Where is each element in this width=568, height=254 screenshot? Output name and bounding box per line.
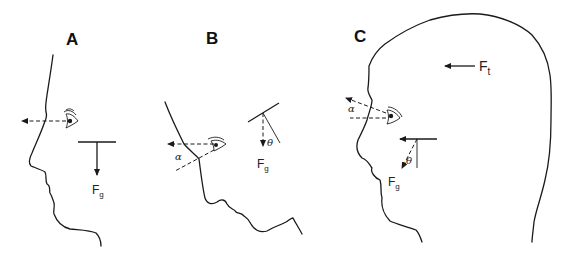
gravity-force-label-b: Fg [257,157,269,173]
face-profile-b [165,102,302,234]
eye-icon-a [64,109,78,128]
theta-label-b: θ [267,137,273,148]
gravity-force-label-a: Fg [92,183,104,199]
head-profile-c [357,14,551,242]
gravity-force-label-c: Fg [388,175,400,191]
vestibular-head-orientation-figure: A Fg B α [0,0,568,254]
panel-label-c: C [354,27,366,46]
alpha-label-b: α [175,151,182,162]
head-axis-bar-b [248,103,279,122]
translational-force-label-c: Ft [479,58,491,77]
alpha-label-c: α [348,103,355,114]
panel-label-a: A [66,30,78,49]
face-profile-a [29,55,101,246]
panel-label-b: B [206,29,218,48]
panel-a: A Fg [22,30,116,246]
theta-label-c: θ [406,155,412,166]
panel-c: C Ft α θ Fg [346,14,551,242]
eye-icon-c [387,107,402,124]
panel-b: B α θ Fg [165,29,302,234]
